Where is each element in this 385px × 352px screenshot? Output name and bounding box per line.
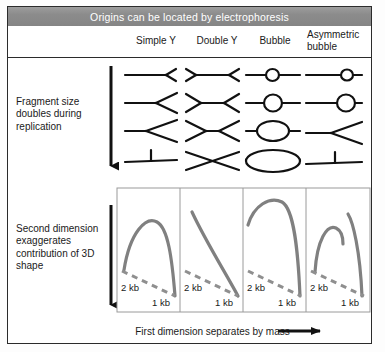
figure-root: Origins can be located by electrophoresi… bbox=[0, 0, 385, 352]
figure-title-bar: Origins can be located by electrophoresi… bbox=[8, 7, 371, 26]
page-title: Origins can be located by electrophoresi… bbox=[90, 11, 289, 23]
column-header-asymmetric-bubble-line1: Asymmetric bbox=[307, 29, 373, 41]
gel-label-1kb-bubble: 1 kb bbox=[278, 297, 296, 308]
column-header-simple-y: Simple Y bbox=[126, 35, 186, 47]
column-header-asymmetric-bubble-line2: bubble bbox=[307, 41, 373, 53]
section-label-second-dimension: Second dimension exaggerates contributio… bbox=[16, 223, 112, 273]
gel-label-2kb-asymmetric-bubble: 2 kb bbox=[310, 282, 328, 293]
gel-label-1kb-asymmetric-bubble: 1 kb bbox=[341, 297, 359, 308]
gel-label-1kb-double-y: 1 kb bbox=[215, 297, 233, 308]
section-label-fragment-size: Fragment size doubles during replication bbox=[16, 96, 108, 133]
gel-label-2kb-double-y: 2 kb bbox=[184, 282, 202, 293]
column-header-double-y: Double Y bbox=[188, 35, 246, 47]
gel-label-1kb-simple-y: 1 kb bbox=[152, 297, 170, 308]
gel-label-2kb-bubble: 2 kb bbox=[247, 282, 265, 293]
column-header-row: Simple Y Double Y Bubble Asymmetric bubb… bbox=[8, 26, 371, 58]
gel-label-2kb-simple-y: 2 kb bbox=[121, 282, 139, 293]
bottom-caption: First dimension separates by mass bbox=[110, 326, 315, 337]
column-header-bubble: Bubble bbox=[249, 35, 301, 47]
column-header-asymmetric-bubble: Asymmetric bubble bbox=[307, 29, 373, 52]
